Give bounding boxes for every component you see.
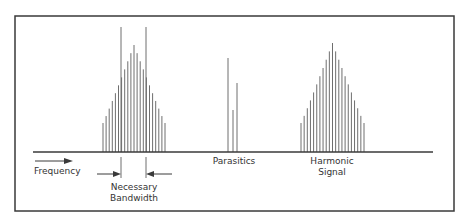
- harmonic-line1: Harmonic: [302, 156, 362, 167]
- harmonic-signal-spectrum: [301, 43, 364, 152]
- parasitics-label: Parasitics: [206, 156, 262, 167]
- main-signal-spectrum: [103, 45, 165, 152]
- necessary-bandwidth-line1: Necessary: [104, 182, 164, 193]
- diagram-frame: [15, 16, 454, 211]
- bandwidth-arrow-right-icon: [146, 171, 172, 177]
- harmonic-line2: Signal: [302, 167, 362, 178]
- bandwidth-arrow-left-icon: [97, 171, 121, 177]
- parasitic-emissions: [228, 58, 237, 152]
- harmonic-signal-label: Harmonic Signal: [302, 156, 362, 178]
- spectrum-diagram: [0, 0, 465, 218]
- frequency-label: Frequency: [34, 166, 81, 177]
- necessary-bandwidth-label: Necessary Bandwidth: [104, 182, 164, 204]
- necessary-bandwidth-line2: Bandwidth: [104, 193, 164, 204]
- frequency-arrow-icon: [35, 158, 73, 164]
